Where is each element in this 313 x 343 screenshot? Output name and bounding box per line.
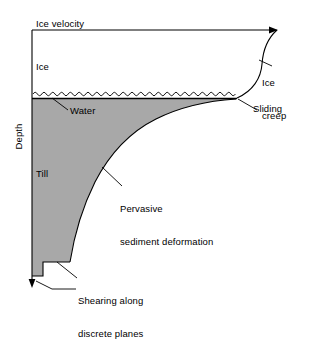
annotation-pervasive-deformation: Pervasive sediment deformation <box>120 181 213 269</box>
axis-label-depth: Depth <box>13 113 24 161</box>
region-label-water: Water <box>70 105 95 116</box>
annotation-shearing-line2: discrete planes <box>78 328 143 339</box>
annotation-shearing: Shearing along discrete planes <box>78 273 143 343</box>
pervasive-leader-line <box>102 167 122 186</box>
region-label-till: Till <box>36 168 48 179</box>
region-label-ice: Ice <box>36 61 49 72</box>
annotation-pervasive-line2: sediment deformation <box>120 236 213 247</box>
annotation-sliding: Sliding <box>253 103 282 114</box>
depth-axis-arrow <box>29 279 36 288</box>
water-wavy-line <box>33 92 235 95</box>
annotation-pervasive-line1: Pervasive <box>120 203 213 214</box>
shearing-leader-line-upper <box>57 262 77 278</box>
annotation-ice-creep: Ice creep <box>262 55 286 143</box>
annotation-ice-creep-line1: Ice <box>262 77 286 88</box>
shearing-leader-line-lower <box>36 281 52 289</box>
annotation-shearing-line1: Shearing along <box>78 295 143 306</box>
axis-label-ice-velocity: Ice velocity <box>36 18 84 29</box>
